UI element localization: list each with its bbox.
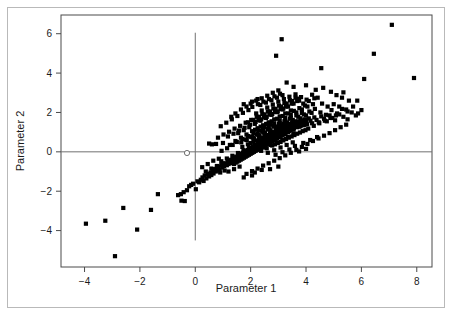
scatter-point [263, 145, 267, 149]
scatter-point [246, 108, 250, 112]
y-tick-label: 4 [46, 68, 52, 79]
scatter-point [390, 23, 394, 27]
scatter-point [207, 141, 211, 145]
scatter-point [278, 156, 282, 160]
scatter-point [265, 140, 269, 144]
scatter-point [245, 138, 249, 142]
scatter-point [246, 134, 250, 138]
scatter-point [324, 113, 328, 117]
scatter-point [277, 130, 281, 134]
scatter-point [241, 111, 245, 115]
scatter-point [259, 117, 263, 121]
scatter-point [372, 52, 376, 56]
scatter-point [209, 166, 213, 170]
scatter-point [304, 147, 308, 151]
scatter-point [254, 145, 258, 149]
scatter-point [257, 128, 261, 132]
scatter-point [256, 102, 260, 106]
scatter-point [218, 170, 222, 174]
scatter-point [249, 118, 253, 122]
scatter-point [253, 128, 257, 132]
scatter-point [281, 106, 285, 110]
scatter-point [273, 153, 277, 157]
scatter-point [278, 92, 282, 96]
scatter-point [311, 102, 315, 106]
scatter-point [268, 143, 272, 147]
scatter-point [265, 115, 269, 119]
scatter-point [191, 182, 195, 186]
scatter-point [302, 112, 306, 116]
scatter-point [272, 159, 276, 163]
scatter-point [255, 115, 259, 119]
scatter-point [301, 101, 305, 105]
scatter-point [327, 131, 331, 135]
scatter-point [194, 187, 198, 191]
y-tick-label: −2 [41, 186, 53, 197]
scatter-point [281, 122, 285, 126]
scatter-point [237, 128, 241, 132]
scatter-point [113, 254, 117, 258]
y-tick-label: 6 [46, 28, 52, 39]
scatter-point [282, 97, 286, 101]
scatter-point [328, 116, 332, 120]
scatter-point [266, 135, 270, 139]
scatter-point [227, 130, 231, 134]
scatter-point [219, 149, 223, 153]
scatter-point [281, 114, 285, 118]
scatter-point [149, 208, 153, 212]
scatter-point [329, 90, 333, 94]
scatter-point [334, 113, 338, 117]
scatter-point [341, 115, 345, 119]
scatter-point [272, 94, 276, 98]
scatter-point [270, 138, 274, 142]
scatter-point [238, 124, 242, 128]
scatter-point [283, 153, 287, 157]
y-axis-title: Parameter 2 [14, 111, 26, 172]
scatter-point [270, 119, 274, 123]
x-tick-label: 4 [303, 276, 309, 287]
scatter-point [285, 143, 289, 147]
scatter-point [326, 104, 330, 108]
y-axis-tick-labels: −4−20246 [41, 28, 53, 236]
scatter-point [185, 188, 189, 192]
scatter-point [235, 114, 239, 118]
scatter-point [306, 127, 310, 131]
scatter-point [299, 95, 303, 99]
y-axis-ticks [56, 34, 61, 231]
scatter-point [261, 100, 265, 104]
scatter-point [260, 168, 264, 172]
scatter-point [288, 98, 292, 102]
scatter-point [286, 135, 290, 139]
scatter-point [262, 130, 266, 134]
scatter-point [297, 125, 301, 129]
scatter-point [307, 99, 311, 103]
x-tick-label: 0 [192, 276, 198, 287]
scatter-point [248, 123, 252, 127]
scatter-point [277, 103, 281, 107]
scatter-point [308, 138, 312, 142]
scatter-point [318, 110, 322, 114]
scatter-point [293, 96, 297, 100]
scatter-point [289, 151, 293, 155]
scatter-point [293, 144, 297, 148]
scatter-point [280, 138, 284, 142]
scatter-point [230, 117, 234, 121]
scatter-point [312, 96, 316, 100]
scatter-point [221, 132, 225, 136]
scatter-point [232, 167, 236, 171]
scatter-point [282, 101, 286, 105]
scatter-point [206, 162, 210, 166]
scatter-point [323, 119, 327, 123]
scatter-point [359, 108, 363, 112]
scatter-point [135, 227, 139, 231]
scatter-point [225, 146, 229, 150]
scatter-point [271, 106, 275, 110]
scatter-plot: −4−202468 −4−20246 Parameter 1 Parameter… [0, 0, 456, 317]
scatter-point [307, 109, 311, 113]
scatter-point [242, 150, 246, 154]
scatter-point [337, 104, 341, 108]
scatter-point [255, 97, 259, 101]
scatter-point [254, 120, 258, 124]
scatter-point [266, 151, 270, 155]
scatter-point [250, 173, 254, 177]
